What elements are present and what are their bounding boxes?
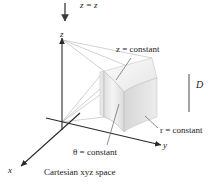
- surface-label-r-constant: r = constant: [160, 126, 203, 135]
- region-label-d: D: [196, 80, 203, 90]
- face-back-left: [100, 71, 104, 117]
- axis-label-z: z: [60, 30, 64, 39]
- figure-vector-canvas: [0, 0, 220, 188]
- volume-element-d: [100, 58, 157, 132]
- axis-label-y: y: [163, 141, 167, 150]
- axis-x-line: [21, 113, 80, 166]
- figure-caption: Cartesian xyz space: [44, 168, 115, 177]
- axis-label-x: x: [8, 166, 12, 175]
- mapping-equation-label: z = z: [80, 1, 98, 10]
- surface-label-theta-constant: θ = constant: [73, 148, 117, 157]
- surface-label-z-constant: z = constant: [116, 45, 160, 54]
- cartesian-xyz-space-figure: z = z z y x z = constant r = constant θ …: [0, 0, 220, 188]
